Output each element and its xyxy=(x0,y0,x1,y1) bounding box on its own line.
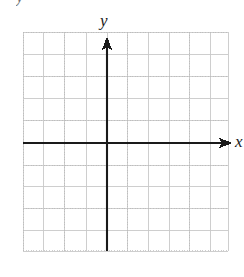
axes xyxy=(23,39,229,251)
x-axis-label: x xyxy=(235,133,243,150)
coordinate-grid-figure: y x y xyxy=(0,0,244,277)
grid-lines xyxy=(23,32,228,251)
grid-scan-texture xyxy=(23,32,228,251)
coordinate-plane-svg xyxy=(0,0,244,277)
y-axis-label: y xyxy=(100,12,108,29)
